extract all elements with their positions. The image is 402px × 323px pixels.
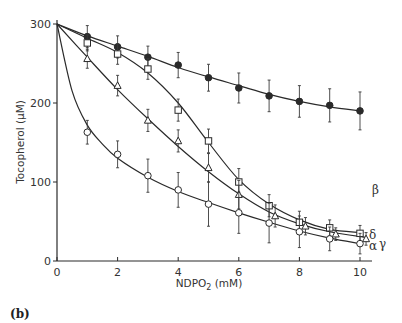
x-tick-label: 10 [353, 266, 367, 279]
series-label: α [369, 239, 377, 253]
data-point [145, 59, 151, 80]
marker-filled-circle [296, 98, 303, 105]
marker-open-circle [266, 220, 273, 227]
marker-open-square [175, 107, 181, 113]
data-point [144, 109, 151, 131]
data-point [205, 129, 211, 153]
data-point [205, 64, 212, 91]
marker-filled-circle [205, 74, 212, 81]
marker-open-square [84, 40, 90, 46]
series-labels: βδγα [369, 183, 386, 253]
data-point [236, 73, 243, 103]
marker-open-circle [296, 228, 303, 235]
data-point [145, 159, 152, 192]
marker-open-triangle [205, 164, 212, 171]
x-axis-label-main: NDPO [176, 277, 207, 289]
marker-open-circle [84, 129, 91, 136]
marker-filled-circle [236, 85, 243, 92]
data-point [84, 120, 91, 144]
y-axis-label: Tocopherol (μM) [14, 100, 26, 185]
marker-filled-circle [266, 93, 273, 100]
data-point [175, 99, 181, 121]
marker-open-square [205, 138, 211, 144]
marker-open-triangle [144, 117, 151, 124]
data-point [326, 89, 333, 122]
marker-open-triangle [114, 82, 121, 89]
marker-filled-circle [326, 102, 333, 109]
data-point [236, 192, 243, 233]
marker-open-circle [236, 210, 243, 217]
data-point [84, 49, 91, 68]
data-point [296, 86, 303, 118]
marker-open-circle [326, 236, 333, 243]
marker-open-circle [357, 240, 364, 247]
data-point [114, 141, 121, 168]
y-tick-label: 200 [30, 97, 51, 110]
x-tick-label: 2 [114, 266, 121, 279]
x-axis-label-unit: (mM) [211, 277, 242, 289]
marker-open-triangle [84, 55, 91, 62]
fitted-curves [57, 24, 366, 244]
data-point [205, 154, 212, 182]
marker-open-circle [175, 187, 182, 194]
x-axis-label: NDPO2 (mM) [176, 277, 242, 292]
marker-open-triangle [175, 137, 182, 144]
data-point [266, 80, 273, 112]
data-points [84, 26, 370, 254]
data-point [205, 182, 212, 226]
data-point [175, 173, 182, 208]
data-point [175, 52, 182, 77]
data-point [357, 92, 364, 130]
y-tick-label: 300 [30, 18, 51, 31]
x-tick-label: 0 [54, 266, 61, 279]
marker-filled-circle [357, 108, 364, 115]
axes: 02468100100200300 [30, 18, 372, 279]
y-tick-label: 0 [44, 255, 51, 268]
marker-filled-circle [175, 62, 182, 69]
y-tick-label: 100 [30, 176, 51, 189]
series-label: γ [379, 237, 386, 251]
marker-open-square [145, 66, 151, 72]
panel-label: (b) [10, 307, 30, 321]
x-tick-label: 8 [296, 266, 303, 279]
marker-open-circle [145, 172, 152, 179]
marker-open-square [114, 51, 120, 57]
marker-open-circle [114, 151, 121, 158]
marker-open-circle [205, 201, 212, 208]
series-label: β [372, 183, 379, 197]
chart: 02468100100200300 βδγα Tocopherol (μM) N… [0, 0, 402, 323]
